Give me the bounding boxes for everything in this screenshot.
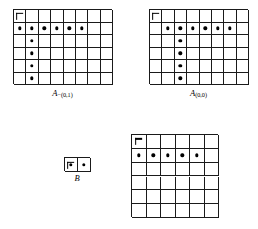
grid-dot bbox=[179, 39, 182, 42]
grid-cell bbox=[187, 10, 199, 23]
grid-cell bbox=[51, 10, 63, 23]
grid-cell bbox=[161, 149, 176, 163]
grid-cell bbox=[101, 23, 113, 36]
grid-cell bbox=[26, 23, 38, 36]
grid-cell bbox=[205, 177, 220, 191]
grid-cell bbox=[14, 23, 26, 36]
grid-cell bbox=[205, 204, 220, 218]
grid-dot bbox=[80, 27, 83, 30]
grid-cell bbox=[88, 73, 100, 86]
grid-cell bbox=[162, 10, 174, 23]
grid-cell bbox=[224, 73, 236, 86]
grid-cell bbox=[51, 35, 63, 48]
grid-cell bbox=[132, 135, 147, 149]
grid-cell bbox=[147, 204, 162, 218]
grid-cell bbox=[26, 73, 38, 86]
grid-cell bbox=[150, 73, 162, 86]
grid-dot bbox=[18, 27, 21, 30]
grid-cell bbox=[224, 35, 236, 48]
grid-cell bbox=[150, 60, 162, 73]
grid-cell bbox=[147, 163, 162, 177]
grid-cell bbox=[88, 23, 100, 36]
grid-dot bbox=[67, 27, 70, 30]
grid-cell bbox=[76, 35, 88, 48]
grid-cell bbox=[190, 190, 205, 204]
grid-cell bbox=[212, 73, 224, 86]
grid-cell bbox=[161, 177, 176, 191]
grid-cell bbox=[162, 48, 174, 61]
grid-cell bbox=[14, 60, 26, 73]
grid-result bbox=[131, 134, 218, 217]
grid-dot bbox=[30, 64, 33, 67]
grid-cell bbox=[51, 60, 63, 73]
grid-cell bbox=[175, 23, 187, 36]
grid-cell bbox=[64, 10, 76, 23]
grid-cell bbox=[200, 23, 212, 36]
grid-cell bbox=[39, 60, 51, 73]
grid-cell bbox=[176, 204, 191, 218]
origin-marker-icon bbox=[135, 138, 142, 145]
grid-cell bbox=[237, 60, 249, 73]
grid-cell bbox=[176, 135, 191, 149]
grid-cell bbox=[132, 149, 147, 163]
caption-symbol: B bbox=[74, 173, 79, 183]
grid-cell bbox=[64, 35, 76, 48]
grid-cell bbox=[101, 10, 113, 23]
grid-dot bbox=[203, 27, 206, 30]
grid-cell bbox=[132, 163, 147, 177]
grid-cell bbox=[161, 135, 176, 149]
grid-cell bbox=[26, 10, 38, 23]
grid-cell bbox=[200, 73, 212, 86]
grid-cell bbox=[190, 204, 205, 218]
grid-dot bbox=[181, 154, 184, 157]
grid-dot bbox=[152, 154, 155, 157]
grid-cell bbox=[200, 60, 212, 73]
grid-cell bbox=[132, 190, 147, 204]
grid-dot bbox=[82, 163, 85, 166]
grid-cell bbox=[224, 48, 236, 61]
grid-cell bbox=[190, 163, 205, 177]
grid-cell bbox=[175, 35, 187, 48]
grid-cell bbox=[237, 35, 249, 48]
grid-cell bbox=[51, 48, 63, 61]
grid-cell bbox=[161, 190, 176, 204]
grid-cell bbox=[39, 73, 51, 86]
grid-dot bbox=[191, 27, 194, 30]
grid-cell bbox=[132, 177, 147, 191]
grid-cell bbox=[64, 73, 76, 86]
grid-cell bbox=[200, 10, 212, 23]
grid-cell bbox=[26, 48, 38, 61]
grid-cell bbox=[162, 23, 174, 36]
grid-cell bbox=[39, 23, 51, 36]
grid-dot bbox=[30, 52, 33, 55]
grid-cell bbox=[39, 48, 51, 61]
grid-a-minus-01 bbox=[13, 9, 112, 84]
grid-a-00 bbox=[149, 9, 248, 84]
grid-cell bbox=[187, 35, 199, 48]
grid-cell bbox=[51, 73, 63, 86]
grid-cell bbox=[187, 60, 199, 73]
grid-cell bbox=[175, 73, 187, 86]
grid-cell bbox=[205, 163, 220, 177]
grid-cell bbox=[205, 149, 220, 163]
grid-cell bbox=[212, 10, 224, 23]
caption-subscript: (0,0) bbox=[195, 91, 207, 98]
grid-dot bbox=[30, 39, 33, 42]
grid-cell bbox=[200, 35, 212, 48]
grid-cell bbox=[14, 73, 26, 86]
grid-cell bbox=[161, 163, 176, 177]
grid-cell bbox=[14, 35, 26, 48]
origin-marker-icon bbox=[16, 13, 23, 20]
grid-cell bbox=[237, 23, 249, 36]
origin-marker-icon bbox=[152, 13, 159, 20]
grid-cell bbox=[51, 23, 63, 36]
grid-cell bbox=[190, 177, 205, 191]
grid-cell bbox=[147, 177, 162, 191]
panel-a-minus-01: A−(0,1) bbox=[13, 9, 112, 84]
grid-cell bbox=[187, 48, 199, 61]
grid-cell bbox=[150, 35, 162, 48]
grid-cell bbox=[212, 48, 224, 61]
panel-result bbox=[131, 134, 218, 217]
grid-cell bbox=[14, 48, 26, 61]
grid-dot bbox=[216, 27, 219, 30]
